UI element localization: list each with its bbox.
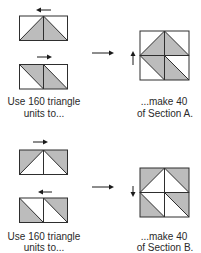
units-caption-line1: Use 160 triangle bbox=[8, 231, 81, 242]
units-caption-line2: units to... bbox=[24, 108, 65, 119]
flow-arrow-right-icon bbox=[92, 51, 114, 56]
result-caption-line1: ...make 40 bbox=[141, 96, 188, 107]
result-caption-line1: ...make 40 bbox=[141, 231, 188, 242]
section-a-block bbox=[140, 31, 189, 80]
triangle-unit-b1 bbox=[20, 140, 68, 175]
section-b: Use 160 triangle units to... ...make 4 bbox=[8, 140, 194, 253]
arrow-up-icon bbox=[131, 51, 136, 65]
result-caption-line2: of Section B. bbox=[137, 242, 194, 253]
flow-arrow-right-icon bbox=[92, 185, 114, 190]
triangle-unit-b2 bbox=[20, 190, 68, 223]
arrow-right-icon bbox=[33, 140, 48, 145]
arrow-right-icon bbox=[37, 55, 52, 60]
triangle-unit-a2 bbox=[20, 55, 68, 90]
arrow-left-icon bbox=[36, 8, 51, 13]
arrow-down-icon bbox=[131, 186, 136, 197]
triangle-unit-a1 bbox=[20, 8, 68, 41]
units-caption-line2: units to... bbox=[24, 242, 65, 253]
result-caption-line2: of Section A. bbox=[137, 108, 193, 119]
section-a: Use 160 triangle units to... ...make 40 … bbox=[8, 8, 193, 120]
section-b-block bbox=[140, 168, 189, 217]
units-caption-line1: Use 160 triangle bbox=[8, 96, 81, 107]
quilt-assembly-diagram: Use 160 triangle units to... ...make 40 … bbox=[0, 0, 201, 253]
arrow-left-icon bbox=[38, 190, 52, 195]
